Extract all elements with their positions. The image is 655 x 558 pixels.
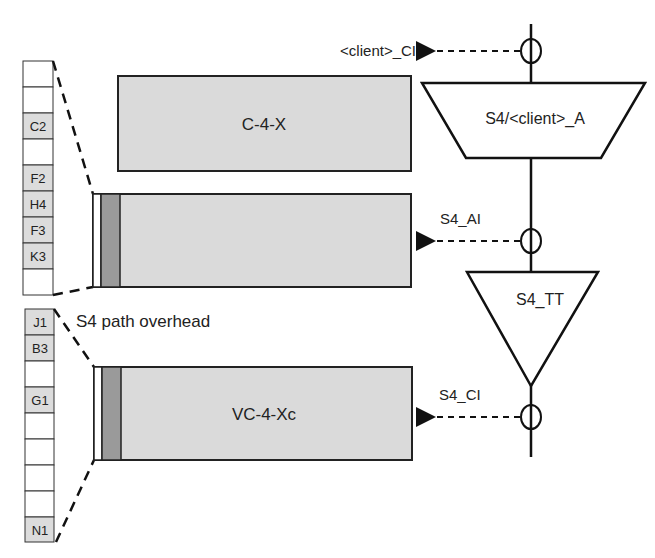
upper-cell-8 [23,269,53,295]
path-overhead-strip [101,194,120,287]
upper-cell-k3: K3 [23,243,53,269]
fixed-stuff-strip [94,367,102,460]
cell-label: G1 [31,393,48,408]
s4-ai-label: S4_AI [440,210,481,227]
lower-cell-g1: G1 [25,387,54,413]
lower-cell-n1: N1 [25,517,54,542]
trail-termination-function: S4_TT [467,272,598,386]
vc4xc-box: VC-4-Xc [94,367,412,460]
cell-label: F3 [30,223,45,238]
client-ci-label: <client>_CI [340,42,416,59]
trail-termination-label: S4_TT [516,291,564,309]
upper-cell-f2: F2 [23,165,53,191]
upper-cell-1 [23,87,53,113]
expansion-line-lower-bottom [56,460,94,542]
path-overhead-label: S4 path overhead [76,312,210,331]
fixed-stuff-strip [93,194,101,287]
path-overhead-strip [102,367,121,460]
cell-label: J1 [33,315,47,330]
lower-cell-4 [25,413,54,439]
upper-cell-c2: C2 [23,113,53,139]
cell-label: B3 [32,341,48,356]
lower-cell-7 [25,491,54,517]
s4-ci-label: S4_CI [439,386,481,403]
lower-cell-2 [25,361,54,387]
cell-label: H4 [30,197,47,212]
cell-label: F2 [30,171,45,186]
adaptation-function: S4/<client>_A [422,83,645,158]
middle-vc-box [93,194,411,287]
upper-cell-f3: F3 [23,217,53,243]
lower-cell-6 [25,465,54,491]
lower-cell-j1: J1 [25,309,54,335]
expansion-line-upper-bottom [53,287,93,295]
vc4xc-label: VC-4-Xc [232,405,297,424]
upper-cell-0 [23,61,53,87]
sdh-s4-layer-diagram: C2 F2 H4 F3 K3 J1 B3 G1 N1 C-4-X S4 path… [0,0,655,558]
lower-cell-b3: B3 [25,335,54,361]
expansion-line-upper-top [53,61,93,194]
lower-overhead-column: J1 B3 G1 N1 [25,309,54,542]
c4x-label: C-4-X [242,115,286,134]
c4x-container-box: C-4-X [118,76,411,171]
upper-cell-3 [23,139,53,165]
upper-overhead-column: C2 F2 H4 F3 K3 [23,61,53,295]
lower-cell-5 [25,439,54,465]
cell-label: K3 [30,249,46,264]
cell-label: C2 [30,119,47,134]
cell-label: N1 [32,523,49,538]
adaptation-label: S4/<client>_A [485,110,585,128]
upper-cell-h4: H4 [23,191,53,217]
